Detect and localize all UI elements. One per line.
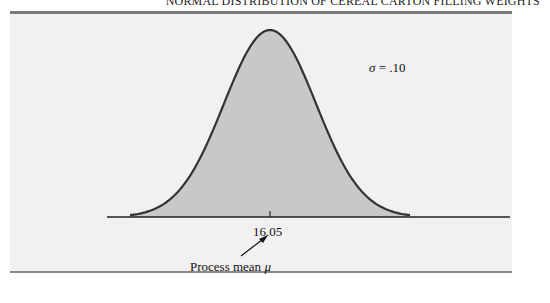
sigma-label: σ = .10 <box>369 60 406 76</box>
mean-text: Process mean <box>190 259 264 274</box>
mu-symbol: μ <box>264 259 271 274</box>
process-mean-label: Process mean μ <box>190 259 271 275</box>
curve-area <box>130 30 410 217</box>
mean-tick-label: 16.05 <box>253 224 282 240</box>
normal-curve-plot <box>0 0 550 303</box>
sigma-value: = .10 <box>375 60 405 75</box>
